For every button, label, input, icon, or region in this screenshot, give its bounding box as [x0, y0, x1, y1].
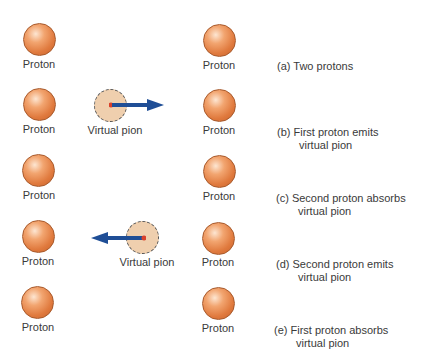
proton-label: Proton [189, 124, 249, 136]
proton-right-b [203, 89, 236, 122]
arrow-right-icon [109, 97, 169, 113]
proton-label: Proton [8, 255, 68, 267]
proton-label: Proton [9, 189, 69, 201]
virtual-pion-label: Virtual pion [80, 124, 150, 136]
proton-right-d [202, 222, 235, 255]
proton-left-b [23, 88, 56, 121]
proton-label: Proton [188, 322, 248, 334]
caption-e: (e) First proton absorbs virtual pion [274, 324, 388, 350]
proton-label: Proton [9, 123, 69, 135]
proton-left-a [23, 23, 56, 56]
proton-left-c [22, 154, 55, 187]
proton-left-d [22, 220, 55, 253]
caption-d: (d) Second proton emits virtual pion [276, 258, 393, 284]
proton-left-e [21, 286, 54, 319]
proton-label: Proton [189, 190, 249, 202]
proton-right-a [203, 24, 236, 57]
proton-label: Proton [188, 256, 248, 268]
proton-right-e [202, 287, 235, 320]
caption-b: (b) First proton emits virtual pion [277, 126, 378, 152]
virtual-pion-label: Virtual pion [112, 256, 182, 268]
proton-right-c [203, 155, 236, 188]
arrow-tail [100, 230, 146, 246]
proton-label: Proton [9, 58, 69, 70]
proton-label: Proton [189, 59, 249, 71]
proton-label: Proton [8, 321, 68, 333]
caption-a: (a) Two protons [277, 60, 353, 73]
caption-c: (c) Second proton absorbs virtual pion [276, 192, 406, 218]
